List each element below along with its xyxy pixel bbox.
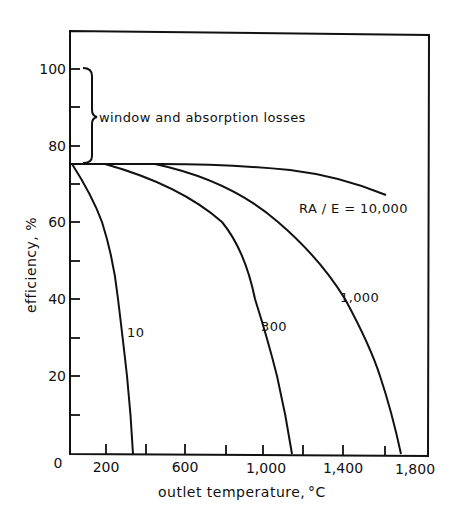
x-tick-label-200: 200 bbox=[93, 459, 120, 475]
curve-label-10000: RA / E = 10,000 bbox=[299, 201, 408, 216]
x-axis-unit: °C bbox=[308, 484, 326, 500]
x-tick-label-1400: 1,400 bbox=[323, 460, 363, 476]
brace-icon bbox=[83, 68, 97, 163]
plot-frame bbox=[70, 31, 429, 456]
curve-label-300: 300 bbox=[261, 319, 287, 334]
y-axis-title: efficiency, % bbox=[23, 217, 39, 313]
origin-label: 0 bbox=[54, 455, 63, 471]
curve-10 bbox=[72, 164, 133, 454]
y-tick-label-80: 80 bbox=[48, 138, 66, 154]
y-tick-label-60: 60 bbox=[48, 214, 66, 230]
x-tick-label-600: 600 bbox=[172, 459, 199, 475]
curve-label-10: 10 bbox=[127, 325, 144, 340]
curve-300 bbox=[105, 164, 292, 454]
y-tick-label-40: 40 bbox=[48, 291, 66, 307]
x-axis-title: outlet temperature, bbox=[158, 484, 305, 500]
x-tick-label-1000: 1,000 bbox=[246, 460, 286, 476]
annotation-label: window and absorption losses bbox=[99, 110, 306, 125]
y-tick-label-100: 100 bbox=[39, 61, 66, 77]
y-axis-ticks bbox=[70, 69, 80, 415]
efficiency-chart: 100 80 60 40 20 0 200 600 1,000 1,400 1,… bbox=[0, 0, 451, 525]
y-tick-label-20: 20 bbox=[48, 368, 66, 384]
x-tick-label-1800: 1,800 bbox=[395, 461, 435, 477]
curve-label-1000: 1,000 bbox=[340, 290, 379, 305]
